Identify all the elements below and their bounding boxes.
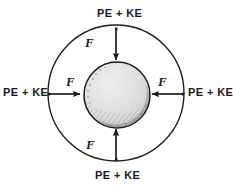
force-label-right: F (158, 75, 167, 88)
force-label-top: F (85, 36, 94, 49)
force-label-bottom: F (86, 138, 95, 151)
central-sphere (84, 62, 150, 128)
energy-label-right: PE + KE (188, 87, 233, 98)
physics-force-energy-diagram: PE + KE PE + KE PE + KE PE + KE F F F F (0, 0, 233, 189)
force-label-left: F (66, 75, 75, 88)
energy-label-left: PE + KE (3, 87, 48, 98)
energy-label-bottom: PE + KE (95, 170, 140, 181)
energy-label-top: PE + KE (97, 8, 142, 19)
